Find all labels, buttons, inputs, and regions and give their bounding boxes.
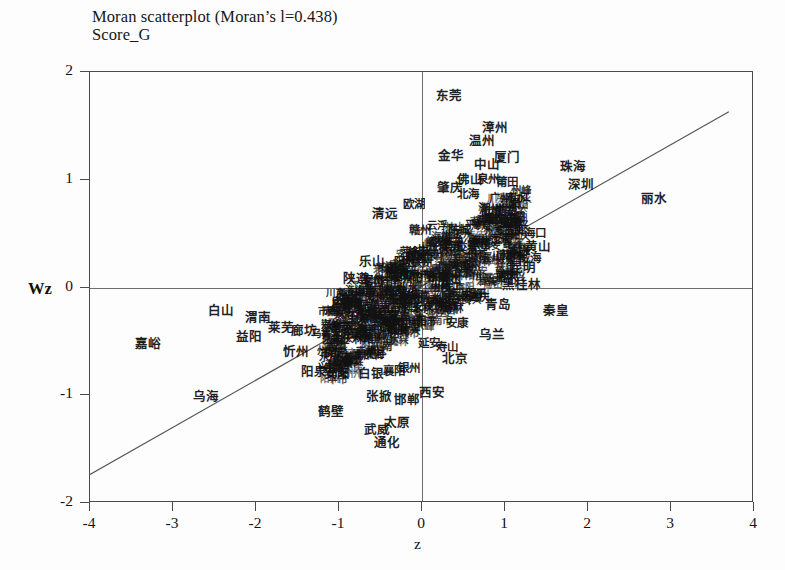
scatter-point-label: 川兴	[401, 313, 421, 324]
scatter-point-label: 庆山	[386, 268, 406, 278]
scatter-point-label: 林林	[406, 255, 426, 266]
x-tick-label: -2	[238, 514, 272, 532]
scatter-point-label: 东莞	[436, 89, 462, 102]
scatter-point-label: 南州	[469, 289, 489, 300]
scatter-point-label: 深圳	[568, 179, 594, 192]
x-tick-mark	[753, 502, 754, 511]
scatter-point-label: 林南	[364, 275, 384, 286]
y-tick-label: -1	[39, 384, 73, 402]
x-tick-mark	[255, 502, 256, 511]
y-tick-label: 1	[39, 169, 73, 187]
scatter-point-label: 海峰	[321, 319, 341, 330]
scatter-point-label: 乌海	[193, 391, 219, 404]
x-tick-mark	[587, 502, 588, 511]
scatter-point-label: 川庆	[333, 333, 353, 344]
x-tick-mark	[338, 502, 339, 511]
scatter-point-label: 鹤壁	[318, 406, 344, 419]
scatter-point-label: 秦皇	[543, 305, 569, 318]
scatter-point-label: 山山	[436, 306, 456, 316]
scatter-point-label: 安林	[424, 250, 444, 261]
plot-frame: 东莞漳州温州金华厦门中山珠海佛山泉州莆田肇庆深圳北海广州丽水欧湖潮州清远潮州云浮…	[89, 71, 753, 502]
scatter-point-label: 欧湖	[403, 199, 425, 211]
scatter-point-label: 阳州	[465, 271, 485, 281]
scatter-point-label: 忻州	[283, 346, 309, 359]
scatter-point-label: 邯郸	[394, 393, 420, 406]
scatter-point-label: 平水	[393, 299, 413, 309]
chart-subtitle: Score_G	[92, 26, 338, 44]
scatter-point-label: 白山	[208, 305, 234, 318]
x-tick-label: -4	[72, 514, 106, 532]
scatter-point-label: 西安	[419, 387, 445, 400]
scatter-point-label: 益阳	[236, 331, 262, 344]
scatter-point-label: 珠海	[560, 161, 586, 174]
y-tick-label: -2	[39, 492, 73, 510]
scatter-point-label: 莱芜	[268, 322, 294, 335]
scatter-point-label: 银州	[398, 364, 420, 376]
scatter-point-label: 丽水	[641, 193, 667, 206]
x-tick-mark	[172, 502, 173, 511]
scatter-point-label: 州兴	[328, 369, 348, 379]
scatter-point-label: 通化	[374, 436, 400, 449]
moran-scatterplot-figure: Moran scatterplot (Moran’s l=0.438) Scor…	[0, 0, 785, 570]
scatter-point-label: 中山	[474, 158, 500, 171]
scatter-point-label: 水兴	[509, 245, 529, 256]
x-tick-mark	[421, 502, 422, 511]
scatter-point-label: 州峰	[511, 185, 531, 196]
scatter-point-label: 山州	[414, 267, 434, 277]
scatter-point-label: 张掀	[366, 391, 392, 404]
page-title: Moran scatterplot (Moran’s l=0.438)	[92, 8, 338, 26]
y-tick-mark	[80, 71, 89, 72]
scatter-point-label: 北海	[457, 189, 479, 201]
scatter-plot-area: 东莞漳州温州金华厦门中山珠海佛山泉州莆田肇庆深圳北海广州丽水欧湖潮州清远潮州云浮…	[90, 72, 752, 501]
scatter-point-label: 渭南	[245, 311, 271, 324]
x-axis-title: z	[414, 535, 421, 553]
x-tick-label: -1	[321, 514, 355, 532]
scatter-point-label: 庆兴	[489, 217, 509, 227]
scatter-point-label: 温州	[469, 135, 495, 148]
scatter-point-label: 林平	[448, 255, 468, 266]
y-tick-mark	[80, 287, 89, 288]
scatter-point-label: 水兴	[389, 335, 409, 345]
scatter-point-label: 阳州	[346, 321, 366, 332]
y-tick-mark	[80, 179, 89, 180]
x-tick-label: 4	[736, 514, 770, 532]
scatter-point-label: 州平	[416, 297, 436, 307]
x-tick-mark	[89, 502, 90, 511]
x-tick-label: 0	[404, 514, 438, 532]
scatter-point-label: 金华	[438, 150, 464, 163]
chart-title-block: Moran scatterplot (Moran’s l=0.438) Scor…	[92, 8, 338, 44]
scatter-point-label: 海海	[471, 221, 491, 231]
y-tick-mark	[80, 502, 89, 503]
scatter-point-label: 清远	[372, 208, 398, 221]
y-tick-label: 2	[39, 61, 73, 79]
y-tick-label: 0	[39, 277, 73, 295]
scatter-point-label: 市平	[355, 308, 375, 319]
x-tick-label: 1	[487, 514, 521, 532]
scatter-point-label: 乌兰	[479, 329, 505, 342]
y-tick-mark	[80, 394, 89, 395]
x-tick-mark	[504, 502, 505, 511]
x-tick-label: 3	[653, 514, 687, 532]
x-tick-label: -3	[155, 514, 189, 532]
scatter-point-label: 嘉峪	[135, 337, 161, 350]
scatter-point-label: 川林	[368, 291, 388, 302]
scatter-point-label: 北京	[442, 352, 468, 365]
x-tick-mark	[670, 502, 671, 511]
x-tick-label: 2	[570, 514, 604, 532]
